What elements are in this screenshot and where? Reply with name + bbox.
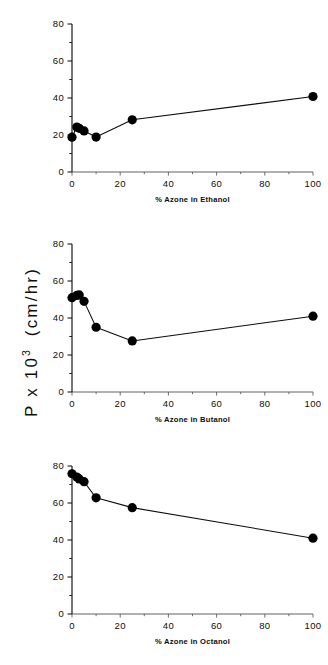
data-point[interactable] <box>92 132 101 141</box>
y-tick-label-60: 60 <box>53 55 64 66</box>
chart-panel-ethanol: 020406080020406080100% Azone in Ethanol <box>0 0 328 220</box>
x-tick-label-80: 80 <box>259 398 270 409</box>
y-tick-label-20: 20 <box>53 349 64 360</box>
chart-svg-1: 020406080020406080100% Azone in Ethanol <box>0 0 328 220</box>
x-axis-title: % Azone in Octanol <box>155 637 230 646</box>
y-tick-label-0: 0 <box>58 166 64 177</box>
x-tick-label-20: 20 <box>115 398 126 409</box>
y-tick-label-40: 40 <box>53 534 64 545</box>
x-tick-label-40: 40 <box>163 178 174 189</box>
azone-permeability-figure: P x 103 (cm/hr) 020406080020406080100% A… <box>0 0 328 665</box>
series-line-1 <box>72 97 313 138</box>
data-point[interactable] <box>67 133 76 142</box>
chart-panel-octanol: 020406080020406080100% Azone in Octanol <box>0 442 328 662</box>
x-tick-label-0: 0 <box>69 620 75 631</box>
y-tick-label-80: 80 <box>53 18 64 29</box>
y-tick-label-60: 60 <box>53 275 64 286</box>
y-tick-label-60: 60 <box>53 497 64 508</box>
x-tick-label-40: 40 <box>163 620 174 631</box>
y-tick-label-20: 20 <box>53 129 64 140</box>
data-point[interactable] <box>308 92 317 101</box>
y-tick-label-40: 40 <box>53 92 64 103</box>
x-tick-label-60: 60 <box>211 398 222 409</box>
data-point[interactable] <box>92 493 101 502</box>
x-tick-label-80: 80 <box>259 178 270 189</box>
x-tick-label-60: 60 <box>211 178 222 189</box>
data-point[interactable] <box>92 323 101 332</box>
y-tick-label-20: 20 <box>53 571 64 582</box>
x-tick-label-100: 100 <box>305 620 322 631</box>
data-point[interactable] <box>308 534 317 543</box>
x-tick-label-40: 40 <box>163 398 174 409</box>
data-point[interactable] <box>128 115 137 124</box>
x-tick-label-100: 100 <box>305 178 322 189</box>
y-tick-label-40: 40 <box>53 312 64 323</box>
series-line-2 <box>72 295 313 341</box>
x-tick-label-60: 60 <box>211 620 222 631</box>
data-point[interactable] <box>79 477 88 486</box>
y-tick-label-0: 0 <box>58 608 64 619</box>
data-point[interactable] <box>308 312 317 321</box>
x-tick-label-80: 80 <box>259 620 270 631</box>
x-tick-label-20: 20 <box>115 620 126 631</box>
x-axis-title: % Azone in Ethanol <box>155 195 230 204</box>
x-tick-label-0: 0 <box>69 398 75 409</box>
x-tick-label-0: 0 <box>69 178 75 189</box>
x-axis-title: % Azone in Butanol <box>155 415 230 424</box>
chart-svg-2: 020406080020406080100% Azone in Butanol <box>0 220 328 440</box>
chart-svg-3: 020406080020406080100% Azone in Octanol <box>0 442 328 662</box>
y-tick-label-0: 0 <box>58 386 64 397</box>
data-point[interactable] <box>128 503 137 512</box>
x-tick-label-20: 20 <box>115 178 126 189</box>
y-tick-label-80: 80 <box>53 238 64 249</box>
chart-panel-butanol: 020406080020406080100% Azone in Butanol <box>0 220 328 440</box>
data-point[interactable] <box>79 126 88 135</box>
data-point[interactable] <box>128 336 137 345</box>
x-tick-label-100: 100 <box>305 398 322 409</box>
y-tick-label-80: 80 <box>53 460 64 471</box>
data-point[interactable] <box>79 297 88 306</box>
series-line-3 <box>72 474 313 538</box>
